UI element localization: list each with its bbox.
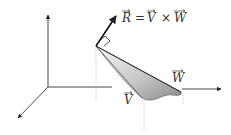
swept-surface xyxy=(96,46,181,100)
eq-w: W xyxy=(174,11,188,25)
label-w: W xyxy=(172,70,186,86)
label-v-text: V xyxy=(124,93,134,107)
axis-x xyxy=(18,87,48,118)
label-v: V xyxy=(124,92,134,108)
eq-r: R xyxy=(121,11,131,25)
cross-product-diagram: R = V × W W V xyxy=(0,0,231,135)
eq-v: V xyxy=(147,11,157,25)
eq-times: × xyxy=(161,11,171,25)
label-w-text: W xyxy=(172,71,186,85)
eq-equals: = xyxy=(135,11,145,25)
equation-label: R = V × W xyxy=(121,10,188,26)
vector-r xyxy=(96,16,116,46)
right-angle-marker xyxy=(99,36,110,46)
